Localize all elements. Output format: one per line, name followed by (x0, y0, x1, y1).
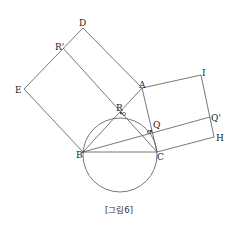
label-b: B (76, 150, 83, 160)
segment-rprime-c (63, 48, 157, 152)
label-i: I (202, 68, 206, 78)
circle (83, 118, 157, 192)
segment-ih (201, 75, 214, 137)
segment-ai (142, 75, 201, 88)
figure-caption: [그림6] (105, 205, 133, 215)
segment-de (24, 28, 83, 89)
segment-hc (157, 137, 214, 152)
segment-eb (24, 89, 83, 152)
label-r: R (116, 103, 123, 113)
segment-ad (83, 28, 142, 88)
label-h: H (216, 133, 224, 143)
label-q: Q (153, 120, 160, 130)
label-r-prime: R' (55, 42, 64, 52)
label-c: C (157, 152, 164, 162)
label-q-prime: Q' (211, 113, 221, 123)
geometry-diagram: D R' E A R Q I Q' H B C [그림6] (0, 0, 239, 233)
label-d: D (79, 18, 86, 28)
label-e: E (15, 85, 22, 95)
label-a: A (138, 80, 146, 90)
